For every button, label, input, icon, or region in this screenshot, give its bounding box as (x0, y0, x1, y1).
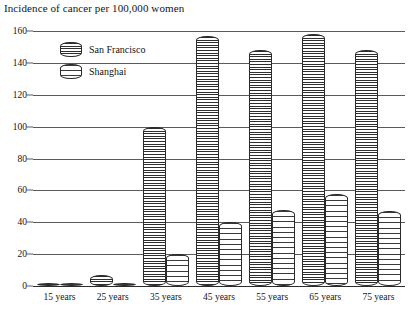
bar-group-45-years: 45 years (192, 31, 245, 286)
bar-group-35-years: 35 years (139, 31, 192, 286)
bar-shanghai-45-years (219, 222, 242, 286)
legend-label-san-francisco: San Francisco (89, 44, 145, 55)
bar-san-francisco-15-years (37, 283, 60, 286)
bar-shanghai-25-years (113, 283, 136, 286)
bar-shanghai-65-years (325, 194, 348, 286)
legend-item-shanghai: Shanghai (60, 60, 145, 82)
bar-san-francisco-55-years (249, 50, 272, 286)
y-axis-tick-label-80: 80 (18, 154, 28, 164)
chart-legend: San Francisco Shanghai (60, 38, 145, 82)
y-axis-tick-label-120: 120 (13, 90, 27, 100)
bar-san-francisco-75-years (355, 50, 378, 286)
cancer-incidence-bar-chart: Incidence of cancer per 100,000 women 02… (0, 0, 418, 318)
bar-san-francisco-35-years (143, 127, 166, 286)
x-axis-label-15-years: 15 years (44, 292, 76, 302)
legend-item-san-francisco: San Francisco (60, 38, 145, 60)
y-axis-tick-label-160: 160 (13, 26, 27, 36)
bar-group-75-years: 75 years (352, 31, 405, 286)
x-axis-label-55-years: 55 years (256, 292, 288, 302)
x-axis-label-45-years: 45 years (203, 292, 235, 302)
bar-san-francisco-25-years (90, 275, 113, 286)
legend-swatch-icon-shanghai (60, 64, 82, 79)
bar-shanghai-35-years (166, 254, 189, 286)
gridline-0: 0 (33, 286, 405, 287)
bar-san-francisco-65-years (302, 34, 325, 286)
y-axis-tick-label-140: 140 (13, 58, 27, 68)
y-axis-tick-label-100: 100 (13, 122, 27, 132)
x-axis-label-25-years: 25 years (97, 292, 129, 302)
y-axis-tick-label-60: 60 (18, 185, 28, 195)
bar-group-55-years: 55 years (246, 31, 299, 286)
bar-shanghai-55-years (272, 210, 295, 287)
x-axis-label-35-years: 35 years (150, 292, 182, 302)
y-axis-tick-label-40: 40 (18, 217, 28, 227)
bar-group-65-years: 65 years (299, 31, 352, 286)
x-axis-label-75-years: 75 years (362, 292, 394, 302)
x-axis-label-65-years: 65 years (309, 292, 341, 302)
chart-title: Incidence of cancer per 100,000 women (4, 2, 184, 14)
y-axis-tick-label-0: 0 (22, 281, 27, 291)
legend-swatch-icon-san-francisco (60, 42, 82, 57)
legend-label-shanghai: Shanghai (89, 66, 126, 77)
bar-shanghai-15-years (60, 283, 83, 286)
y-axis-tick-label-20: 20 (18, 249, 28, 259)
bar-san-francisco-45-years (196, 36, 219, 286)
bar-shanghai-75-years (378, 211, 401, 286)
